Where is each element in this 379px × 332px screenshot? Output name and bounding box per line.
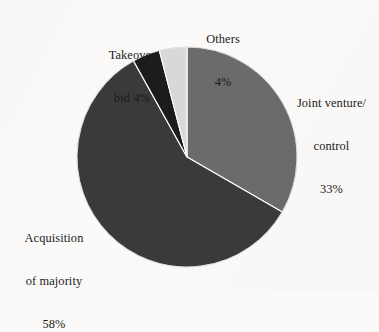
slice-label-takeover-line1: Takeover — [84, 48, 180, 62]
slice-label-acquisition-line3: 58% — [2, 317, 106, 331]
slice-label-joint-line3: 33% — [284, 182, 379, 196]
slice-label-joint-line2: control — [284, 139, 379, 153]
slice-label-takeover-line2: bid 4% — [84, 91, 180, 105]
slice-label-others-line1: Others — [180, 32, 266, 46]
slice-label-others: Others 4% — [180, 4, 266, 118]
slice-label-joint-venture: Joint venture/ control 33% — [284, 68, 379, 224]
slice-label-acquisition: Acquisition of majority 58% — [2, 203, 106, 332]
slice-label-acquisition-line2: of majority — [2, 274, 106, 288]
slice-label-acquisition-line1: Acquisition — [2, 231, 106, 245]
slice-label-joint-line1: Joint venture/ — [284, 96, 379, 110]
slice-label-others-line2: 4% — [180, 75, 266, 89]
slice-label-takeover-bid: Takeover bid 4% — [84, 20, 180, 134]
